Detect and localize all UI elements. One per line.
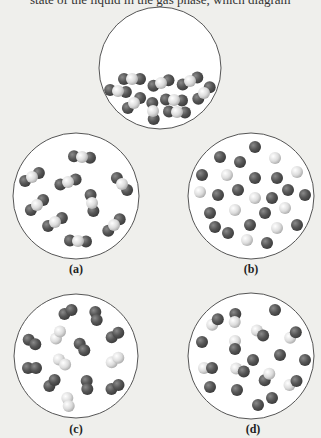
dark-atom [196, 336, 208, 348]
light-atom [108, 219, 120, 231]
triatomic-molecule [163, 106, 191, 119]
light-atom [279, 202, 291, 214]
dark-atom [212, 189, 224, 201]
light-atom [86, 197, 98, 209]
triatomic-molecule [68, 150, 96, 163]
dark-atom [259, 207, 271, 219]
molecular-diagram [0, 0, 321, 438]
dark-atom [113, 379, 125, 391]
panel-a [13, 133, 139, 259]
triatomic-molecule [160, 94, 188, 107]
dark-atom [234, 156, 246, 168]
dark-atom [212, 313, 224, 325]
heteronuclear-molecule [229, 335, 241, 355]
light-atom [271, 222, 283, 234]
dark-atom [244, 219, 256, 231]
dark-atom [112, 327, 124, 339]
light-atom [155, 77, 167, 89]
dark-atom [261, 237, 273, 249]
panel-c [14, 294, 138, 418]
dark-atom [247, 354, 259, 366]
light-atom [62, 176, 74, 188]
panel-label-c: (c) [69, 422, 82, 437]
light-atom [26, 171, 38, 183]
triatomic-molecule [118, 73, 146, 85]
dark-atom [266, 192, 278, 204]
light-atom [54, 326, 66, 338]
dark-atom [222, 227, 234, 239]
triatomic-molecule [64, 235, 92, 248]
light-atom [171, 106, 183, 118]
light-atom [249, 192, 261, 204]
dark-atom [209, 221, 221, 233]
dark-atom [81, 383, 93, 395]
dark-atom [204, 207, 216, 219]
light-atom [184, 75, 196, 87]
light-atom [126, 73, 138, 85]
light-atom [112, 352, 124, 364]
light-atom [168, 94, 180, 106]
dark-atom [249, 172, 261, 184]
light-atom [194, 186, 206, 198]
dark-atom [29, 338, 41, 350]
light-atom [269, 152, 281, 164]
light-atom [63, 400, 75, 412]
dark-atom [266, 392, 278, 404]
light-atom [59, 359, 71, 371]
light-atom [76, 151, 88, 163]
light-atom [221, 169, 233, 181]
light-atom [229, 316, 241, 328]
panel-label-a: (a) [69, 262, 83, 277]
dark-atom [249, 141, 261, 153]
dark-atom [91, 314, 103, 326]
container-circle [99, 7, 221, 129]
dark-atom [291, 219, 303, 231]
dark-atom [66, 304, 78, 316]
dark-atom [30, 362, 42, 374]
triatomic-molecule [146, 97, 159, 125]
heteronuclear-molecule [198, 362, 218, 374]
light-atom [229, 204, 241, 216]
dark-atom [229, 343, 241, 355]
light-atom [116, 178, 128, 190]
dark-atom [257, 330, 269, 342]
dark-atom [204, 381, 216, 393]
dark-atom [282, 184, 294, 196]
dark-atom [78, 344, 90, 356]
dark-atom [196, 169, 208, 181]
dark-atom [299, 189, 311, 201]
light-atom [291, 166, 303, 178]
dark-atom [231, 384, 243, 396]
dark-atom [238, 365, 250, 377]
light-atom [49, 216, 61, 228]
panel-label-d: (d) [246, 422, 261, 437]
light-atom [128, 97, 140, 109]
dark-atom [252, 399, 264, 411]
dark-atom [299, 354, 311, 366]
heteronuclear-molecule [229, 308, 242, 328]
panel-d [188, 293, 314, 419]
dark-atom [274, 349, 286, 361]
light-atom [241, 234, 253, 246]
dark-atom [49, 374, 61, 386]
light-atom [112, 85, 124, 97]
dark-atom [232, 184, 244, 196]
light-atom [263, 368, 275, 380]
light-atom [198, 87, 210, 99]
panel-top [99, 7, 221, 129]
dark-atom [271, 172, 283, 184]
dark-atom [269, 304, 281, 316]
dark-diatomic-molecule [22, 362, 42, 374]
dark-atom [214, 151, 226, 163]
dark-atom [291, 375, 303, 387]
dark-atom [206, 362, 218, 374]
light-atom [31, 199, 43, 211]
light-atom [147, 105, 159, 117]
panel-b [188, 133, 314, 259]
panel-label-b: (b) [244, 262, 259, 277]
dark-diatomic-molecule [81, 375, 94, 395]
light-atom [72, 235, 84, 247]
dark-atom [290, 326, 302, 338]
